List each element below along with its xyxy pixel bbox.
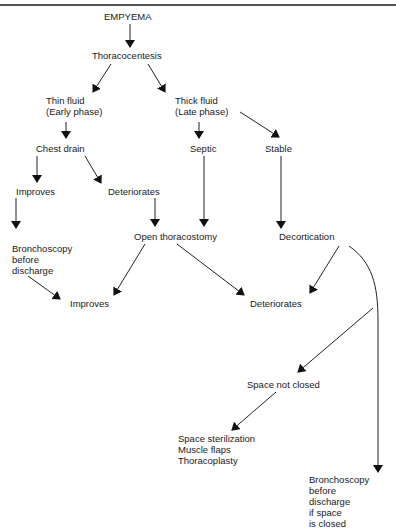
edge-bronchoscopy-improves — [28, 276, 60, 299]
node-open-thoracostomy: Open thoracostomy — [134, 231, 217, 242]
node-thick-fluid: Thick fluid (Late phase) — [175, 95, 228, 117]
node-chest-drain: Chest drain — [36, 143, 85, 154]
node-septic: Septic — [190, 143, 216, 154]
edge-chest-drain-deteriorates — [85, 156, 101, 183]
node-space-options: Space sterilization Muscle flaps Thoraco… — [178, 433, 255, 466]
edge-decortication-deteriorates — [310, 246, 339, 293]
node-space-not-closed: Space not closed — [247, 379, 320, 390]
edge-open-thoracostomy-deteriorates — [177, 244, 244, 295]
edge-thoracocentesis-thin-fluid — [93, 64, 111, 92]
node-bronchoscopy-early: Bronchoscopy before discharge — [12, 243, 72, 276]
node-thoracocentesis: Thoracocentesis — [92, 50, 162, 61]
node-empyema: EMPYEMA — [104, 11, 152, 22]
edge-space-not-closed-options — [232, 392, 276, 430]
edge-open-thoracostomy-improves — [114, 244, 145, 295]
edge-decortication-space-not-closed — [298, 308, 373, 372]
node-deteriorates-early: Deteriorates — [108, 186, 160, 197]
node-thin-fluid: Thin fluid (Early phase) — [46, 95, 103, 117]
edge-thoracocentesis-thick-fluid — [148, 64, 165, 92]
edge-decortication-bronchoscopy — [349, 246, 378, 472]
node-stable: Stable — [265, 143, 292, 154]
node-improves-early: Improves — [16, 186, 55, 197]
node-deteriorates-outcome: Deteriorates — [250, 298, 302, 309]
node-bronchoscopy-late: Bronchoscopy before discharge if space i… — [309, 474, 369, 529]
node-decortication: Decortication — [279, 231, 334, 242]
edge-thick-fluid-stable — [240, 112, 279, 137]
node-improves-outcome: Improves — [70, 298, 109, 309]
